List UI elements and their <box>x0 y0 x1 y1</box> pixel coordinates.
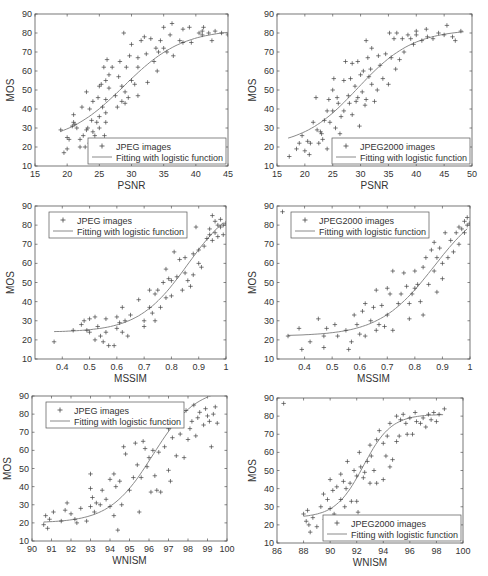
plot-jpeg2000-mssim: 0.40.50.60.70.80.91102030405060708090MSS… <box>244 192 488 384</box>
x-tick-label: 0.5 <box>326 362 339 372</box>
y-tick-label: 20 <box>264 335 274 345</box>
y-tick-label: 10 <box>264 354 274 364</box>
y-tick-label: 60 <box>19 445 29 455</box>
legend-entry-fit: Fitting with logistic function <box>77 227 184 237</box>
x-tick-label: 0.4 <box>56 362 69 372</box>
y-tick-label: 10 <box>264 538 274 548</box>
y-tick-label: 70 <box>264 239 274 249</box>
x-tick-label: 1 <box>467 362 472 372</box>
y-axis-label: MOS <box>247 459 258 482</box>
y-tick-label: 30 <box>264 502 274 512</box>
y-axis-label: MOS <box>247 271 258 294</box>
y-tick-label: 20 <box>264 142 274 152</box>
x-tick-label: 20 <box>62 169 72 179</box>
x-tick-label: 35 <box>159 169 169 179</box>
legend-entry-points: JPEG images <box>74 406 130 416</box>
legend: JPEG imagesFitting with logistic functio… <box>46 402 184 428</box>
y-tick-label: 30 <box>22 316 32 326</box>
chart-svg: 0.40.50.60.70.80.91102030405060708090MSS… <box>0 192 244 384</box>
y-axis-label: MOS <box>5 271 16 294</box>
legend-entry-fit: Fitting with logistic function <box>319 227 426 237</box>
x-tick-label: 50 <box>467 169 477 179</box>
y-tick-label: 20 <box>19 518 29 528</box>
chart-svg: 1520253035404550102030405060708090PSNRMO… <box>244 0 488 192</box>
x-tick-label: 30 <box>356 169 366 179</box>
chart-svg: 9091929394959697989910010203040506070809… <box>0 384 244 576</box>
x-axis-label: WNISM <box>353 557 387 568</box>
chart-svg: 15202530354045102030405060708090PSNRMOSJ… <box>0 0 244 192</box>
legend-entry-fit: Fitting with logistic function <box>360 153 467 163</box>
y-tick-label: 60 <box>264 66 274 76</box>
y-tick-label: 10 <box>19 536 29 546</box>
y-tick-label: 50 <box>264 466 274 476</box>
plot-jpeg-wnism: 9091929394959697989910010203040506070809… <box>0 384 244 576</box>
x-tick-label: 30 <box>126 169 136 179</box>
plot-jpeg-psnr: 15202530354045102030405060708090PSNRMOSJ… <box>0 0 244 192</box>
x-axis-label: WNISM <box>112 555 146 566</box>
y-tick-label: 80 <box>264 28 274 38</box>
y-tick-label: 80 <box>264 411 274 421</box>
x-tick-label: 98 <box>183 544 193 554</box>
y-tick-label: 10 <box>264 161 274 171</box>
legend-entry-points: JPEG2000 images <box>360 142 436 152</box>
x-tick-label: 91 <box>46 544 56 554</box>
y-tick-label: 70 <box>22 239 32 249</box>
x-axis-label: MSSIM <box>357 373 390 384</box>
y-tick-label: 90 <box>19 391 29 401</box>
x-tick-label: 20 <box>300 169 310 179</box>
plot-jpeg2000-wnism: 86889092949698100102030405060708090WNISM… <box>244 384 488 576</box>
x-tick-label: 95 <box>124 544 134 554</box>
y-tick-label: 20 <box>22 335 32 345</box>
legend-entry-fit: Fitting with logistic function <box>351 530 458 540</box>
x-tick-label: 45 <box>439 169 449 179</box>
x-tick-label: 92 <box>66 544 76 554</box>
y-tick-label: 90 <box>22 201 32 211</box>
x-tick-label: 0.7 <box>381 362 394 372</box>
y-tick-label: 40 <box>264 484 274 494</box>
legend: JPEG imagesFitting with logistic functio… <box>49 212 187 238</box>
y-tick-label: 70 <box>19 427 29 437</box>
legend-entry-fit: Fitting with logistic function <box>74 417 181 427</box>
y-axis-label: MOS <box>5 78 16 101</box>
x-tick-label: 45 <box>223 169 233 179</box>
y-tick-label: 40 <box>22 104 32 114</box>
x-tick-label: 94 <box>378 546 388 556</box>
x-tick-label: 100 <box>455 546 470 556</box>
x-tick-label: 93 <box>85 544 95 554</box>
y-tick-label: 40 <box>264 104 274 114</box>
x-tick-label: 0.8 <box>409 362 422 372</box>
y-tick-label: 50 <box>264 278 274 288</box>
x-tick-label: 0.4 <box>298 362 311 372</box>
y-tick-label: 40 <box>19 482 29 492</box>
x-axis-label: PSNR <box>361 180 389 191</box>
y-tick-label: 90 <box>22 9 32 19</box>
y-tick-label: 50 <box>22 85 32 95</box>
y-tick-label: 50 <box>19 464 29 474</box>
y-tick-label: 90 <box>264 9 274 19</box>
y-tick-label: 90 <box>264 393 274 403</box>
x-tick-label: 40 <box>191 169 201 179</box>
x-tick-label: 35 <box>383 169 393 179</box>
y-tick-label: 30 <box>22 123 32 133</box>
y-tick-label: 80 <box>22 220 32 230</box>
x-tick-label: 1 <box>223 362 228 372</box>
y-axis-label: MOS <box>2 457 13 480</box>
y-tick-label: 80 <box>22 28 32 38</box>
chart-svg: 0.40.50.60.70.80.91102030405060708090MSS… <box>244 192 488 384</box>
x-axis-label: PSNR <box>118 180 146 191</box>
legend-entry-fit: Fitting with logistic function <box>116 153 223 163</box>
legend: JPEG2000 imagesFitting with logistic fun… <box>323 515 461 541</box>
x-tick-label: 98 <box>431 546 441 556</box>
y-tick-label: 40 <box>264 297 274 307</box>
x-tick-label: 0.9 <box>436 362 449 372</box>
x-tick-label: 94 <box>105 544 115 554</box>
y-tick-label: 60 <box>264 258 274 268</box>
x-tick-label: 97 <box>163 544 173 554</box>
y-tick-label: 80 <box>264 220 274 230</box>
y-tick-label: 10 <box>22 161 32 171</box>
y-tick-label: 60 <box>22 258 32 268</box>
x-tick-label: 96 <box>405 546 415 556</box>
plot-jpeg2000-psnr: 1520253035404550102030405060708090PSNRMO… <box>244 0 488 192</box>
plot-jpeg-mssim: 0.40.50.60.70.80.91102030405060708090MSS… <box>0 192 244 384</box>
y-tick-label: 10 <box>22 354 32 364</box>
